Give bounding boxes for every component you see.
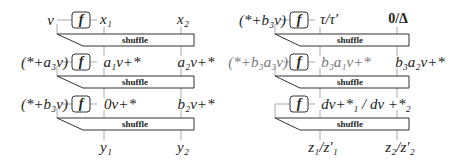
shuffle-label: shuffle <box>122 77 148 87</box>
left-panel: v f x₁ x₂ shuffle (*+a₃v) f a₁v+* a₂v+* … <box>0 0 227 164</box>
row2-col1-label: a₁v+* <box>104 54 141 70</box>
x1-label: x₁ <box>100 11 112 27</box>
row3-col-label: dv+*₁ / dv +*₂ <box>321 96 410 112</box>
row2-col2-label: b₃a₂v+* <box>395 54 445 70</box>
function-box: f <box>79 13 84 27</box>
row3-col2-label: b₂v+* <box>178 96 215 112</box>
y1-label: y₁ <box>100 139 112 155</box>
y2-label: y₂ <box>177 139 189 155</box>
row2-col2-label: a₂v+* <box>178 54 215 70</box>
x2-label: x₂ <box>177 11 189 27</box>
input-label: v <box>47 12 54 28</box>
function-box: f <box>297 97 302 111</box>
z1-label: z₁/z'₁ <box>308 139 337 155</box>
zero-delta-label: 0/Δ <box>388 11 408 27</box>
shuffle-label: shuffle <box>337 119 363 129</box>
left-panel-lines <box>0 0 227 164</box>
input-label: (*+a₃v) <box>21 54 68 70</box>
function-box: f <box>79 97 84 111</box>
z2-label: z₂/z'₂ <box>385 139 414 155</box>
row2-col1-label: b₃a₁v+* <box>321 54 371 70</box>
input-label: (*+b₃a₃v) <box>228 54 288 70</box>
input-label: (*+b₃v) <box>21 96 68 112</box>
tau-label: τ/τ' <box>320 11 338 27</box>
shuffle-label: shuffle <box>337 35 363 45</box>
function-box: f <box>297 55 302 69</box>
input-label: (*+b₃v) <box>239 12 286 28</box>
function-box: f <box>297 13 302 27</box>
right-panel: (*+b₃v) f τ/τ' 0/Δ shuffle (*+b₃a₃v) f b… <box>218 0 445 164</box>
shuffle-label: shuffle <box>122 119 148 129</box>
row3-col1-label: 0v+* <box>104 96 136 112</box>
shuffle-label: shuffle <box>122 35 148 45</box>
function-box: f <box>79 55 84 69</box>
shuffle-label: shuffle <box>337 77 363 87</box>
